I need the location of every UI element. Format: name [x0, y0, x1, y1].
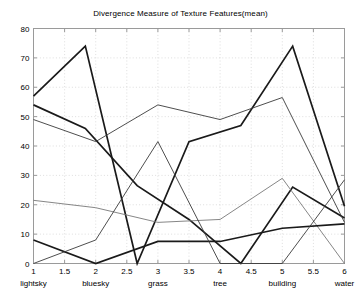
- chart-figure: Divergence Measure of Texture Features(m…: [0, 0, 361, 295]
- x-category-label-tree: tree: [190, 279, 250, 288]
- x-tick-label: 4: [205, 267, 235, 276]
- x-tick-label: 3.5: [174, 267, 204, 276]
- x-tick-label: 5: [267, 267, 297, 276]
- x-tick-label: 5.5: [298, 267, 328, 276]
- y-tick-label: 30: [8, 171, 30, 180]
- y-tick-label: 20: [8, 200, 30, 209]
- x-tick-label: 6: [330, 267, 360, 276]
- y-tick-label: 80: [8, 24, 30, 33]
- x-tick-label: 3: [143, 267, 173, 276]
- x-tick-label: 1.5: [50, 267, 80, 276]
- y-tick-label: 40: [8, 142, 30, 151]
- x-tick-label: 1: [19, 267, 49, 276]
- y-tick-label: 60: [8, 83, 30, 92]
- x-category-label-lightsky: lightsky: [4, 279, 64, 288]
- line-chart-plot: [0, 0, 361, 295]
- x-category-label-bluesky: bluesky: [66, 279, 126, 288]
- y-tick-label: 70: [8, 53, 30, 62]
- x-tick-label: 2: [81, 267, 111, 276]
- y-tick-label: 50: [8, 112, 30, 121]
- y-tick-label: 10: [8, 230, 30, 239]
- x-tick-label: 4.5: [236, 267, 266, 276]
- x-category-label-water: water: [315, 279, 361, 288]
- x-tick-label: 2.5: [112, 267, 142, 276]
- x-category-label-building: building: [252, 279, 312, 288]
- x-category-label-grass: grass: [128, 279, 188, 288]
